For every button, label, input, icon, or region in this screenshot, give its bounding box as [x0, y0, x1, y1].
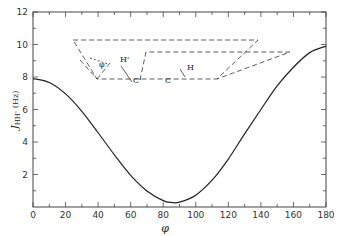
inset-label-phi: φ	[99, 60, 105, 69]
dihedral-inset-diagram	[73, 40, 290, 82]
inset-label-c: C	[165, 76, 171, 85]
x-axis-ticks: 020406080100120140160180	[30, 12, 335, 220]
y-axis-label: JHH'(Hz)	[9, 91, 22, 132]
y-axis-ticks: 24681012	[17, 7, 326, 191]
y-tick-label: 4	[22, 137, 28, 147]
y-tick-label: 10	[17, 40, 29, 50]
x-tick-label: 60	[125, 210, 137, 220]
x-tick-label: 140	[252, 210, 269, 220]
inset-label-h: H	[187, 63, 194, 72]
x-tick-label: 20	[60, 210, 72, 220]
x-axis-label: φ	[161, 222, 169, 235]
x-tick-label: 100	[187, 210, 204, 220]
x-tick-label: 120	[220, 210, 237, 220]
svg-text:JHH'(Hz): JHH'(Hz)	[9, 91, 22, 132]
plot-frame	[33, 12, 326, 207]
x-tick-label: 180	[317, 210, 334, 220]
x-tick-label: 160	[285, 210, 302, 220]
x-tick-label: 0	[30, 210, 36, 220]
y-tick-label: 2	[22, 170, 28, 180]
coupling-curve	[33, 46, 326, 203]
y-tick-label: 8	[22, 72, 28, 82]
x-tick-label: 40	[92, 210, 104, 220]
inset-label-h-prime: H'	[120, 55, 129, 64]
x-tick-label: 80	[157, 210, 169, 220]
karplus-chart: 020406080100120140160180 24681012 φ H' C…	[0, 0, 342, 236]
inset-label-c-prime: C'	[133, 76, 141, 85]
y-tick-label: 6	[22, 105, 28, 115]
y-tick-label: 12	[17, 7, 28, 17]
